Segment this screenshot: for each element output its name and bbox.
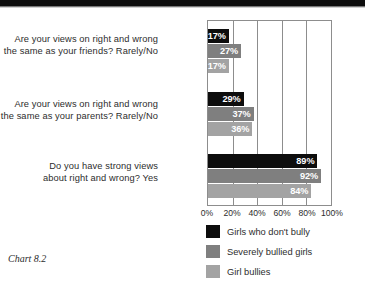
legend-label: Girls who don't bully	[227, 227, 310, 237]
plot-area: 17%27%17% 29%37%36% 89%92%84%	[207, 20, 332, 206]
category-label-line: about right and wrong? Yes	[0, 173, 158, 185]
bar: 17%	[208, 59, 229, 73]
category-label-line: Do you have strong views	[0, 161, 158, 173]
category-label-parents: Are your views on right and wrong the sa…	[0, 99, 158, 122]
bar: 36%	[208, 122, 252, 136]
bar-value-label: 29%	[223, 94, 244, 104]
x-axis-tick-label: 20%	[223, 208, 240, 218]
bar-group-strong-views: 89%92%84%	[208, 154, 331, 199]
x-axis-tick-label: 100%	[321, 208, 343, 218]
category-label-line: the same as your friends? Rarely/No	[0, 46, 158, 58]
bar: 17%	[208, 29, 229, 43]
legend-item: Girls who don't bully	[206, 222, 356, 241]
legend-label: Girl bullies	[227, 267, 270, 277]
bar: 37%	[208, 107, 254, 121]
bar-value-label: 92%	[300, 171, 321, 181]
bar: 27%	[208, 44, 241, 58]
x-axis-tick-labels: 0%20%40%60%80%100%	[207, 208, 332, 222]
chart-legend: Girls who don't bullySeverely bullied gi…	[206, 222, 356, 282]
bar: 89%	[208, 154, 317, 168]
legend-label: Severely bullied girls	[227, 247, 312, 257]
legend-swatch	[206, 245, 220, 258]
legend-item: Severely bullied girls	[206, 242, 356, 261]
x-axis-tick-label: 40%	[248, 208, 265, 218]
legend-item: Girl bullies	[206, 262, 356, 281]
x-axis-tick-label: 60%	[273, 208, 290, 218]
bar: 92%	[208, 169, 321, 183]
category-label-strong-views: Do you have strong views about right and…	[0, 161, 158, 184]
x-axis-tick-label: 80%	[298, 208, 315, 218]
bar-value-label: 37%	[232, 109, 253, 119]
legend-swatch	[206, 225, 220, 238]
bar-value-label: 27%	[220, 46, 241, 56]
category-label-friends: Are your views on right and wrong the sa…	[0, 34, 158, 57]
bar-value-label: 89%	[296, 156, 317, 166]
bar-value-label: 36%	[231, 124, 252, 134]
bar-group-friends: 17%27%17%	[208, 29, 331, 74]
category-label-line: the same as your parents? Rarely/No	[0, 111, 158, 123]
category-label-line: Are your views on right and wrong	[0, 34, 158, 46]
chart-caption: Chart 8.2	[8, 253, 46, 264]
bar: 84%	[208, 184, 311, 198]
legend-swatch	[206, 265, 220, 278]
bar-value-label: 17%	[208, 31, 229, 41]
chart-figure: Are your views on right and wrong the sa…	[0, 0, 365, 287]
bar-value-label: 84%	[290, 186, 311, 196]
category-label-line: Are your views on right and wrong	[0, 99, 158, 111]
bar-group-parents: 29%37%36%	[208, 92, 331, 137]
bar-value-label: 17%	[208, 61, 229, 71]
x-axis-tick-label: 0%	[201, 208, 213, 218]
bar: 29%	[208, 92, 244, 106]
